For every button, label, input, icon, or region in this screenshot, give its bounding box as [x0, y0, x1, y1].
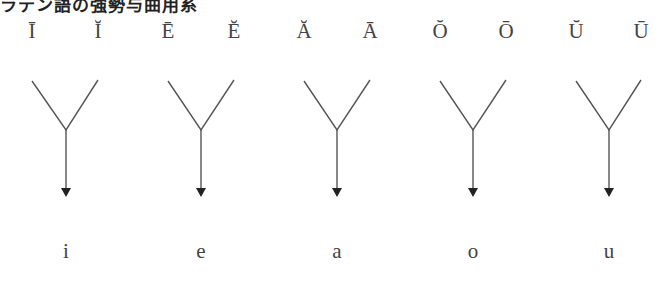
- arrowhead-icon: [332, 188, 342, 197]
- arrowhead-icon: [61, 188, 71, 197]
- arrowhead-icon: [604, 188, 614, 197]
- arrowhead-icon: [468, 188, 478, 197]
- merge-diagram: [0, 0, 662, 281]
- merge-arrow-a: [304, 80, 370, 188]
- arrowhead-icon: [196, 188, 206, 197]
- merge-arrow-o: [440, 80, 506, 188]
- result-vowel-o: o: [468, 239, 479, 264]
- result-vowel-i: i: [63, 239, 69, 264]
- merge-arrow-e: [168, 80, 234, 188]
- result-vowel-u: u: [604, 239, 615, 264]
- merge-arrow-i: [32, 80, 98, 188]
- result-vowel-a: a: [332, 239, 341, 264]
- result-vowel-e: e: [196, 239, 205, 264]
- merge-arrow-u: [576, 80, 641, 188]
